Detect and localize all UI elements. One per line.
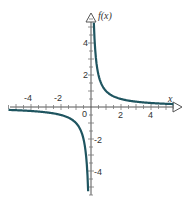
y-tick-label: 4 bbox=[83, 38, 88, 48]
x-tick-label: 0 bbox=[82, 109, 87, 119]
function-graph: x f(x) -4 -2 0 2 4 4 2 -2 -4 bbox=[0, 0, 189, 203]
x-tick-label: 2 bbox=[118, 110, 123, 120]
y-tick-label: -2 bbox=[94, 135, 102, 145]
y-tick-label: -4 bbox=[94, 167, 102, 177]
y-tick-label: 2 bbox=[83, 70, 88, 80]
y-axis-label: f(x) bbox=[98, 10, 113, 22]
x-axis-label: x bbox=[167, 93, 173, 104]
y-axis-arrow-icon bbox=[86, 13, 96, 22]
x-tick-label: -4 bbox=[24, 93, 32, 103]
x-tick-label: -2 bbox=[54, 93, 62, 103]
curve-positive-branch bbox=[94, 23, 174, 104]
x-tick-label: 4 bbox=[148, 110, 153, 120]
x-axis-arrow-icon bbox=[173, 102, 182, 112]
curve-negative-branch bbox=[9, 110, 89, 191]
